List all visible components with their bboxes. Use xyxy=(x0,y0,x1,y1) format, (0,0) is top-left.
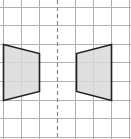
left-trapezoid xyxy=(4,45,40,101)
right-trapezoid xyxy=(77,45,112,101)
reflection-diagram xyxy=(0,0,131,139)
